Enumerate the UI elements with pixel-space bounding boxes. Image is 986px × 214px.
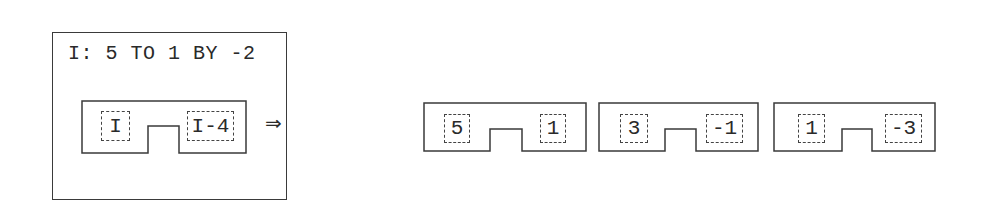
instance-2-right-slot: -1	[706, 114, 743, 143]
instance-1-left-slot: 5	[444, 114, 470, 143]
instance-3-right-slot: -3	[885, 114, 922, 143]
instance-shapes	[0, 0, 986, 214]
instance-2-left-slot: 3	[620, 114, 648, 143]
instance-1-right-slot: 1	[540, 114, 566, 143]
instance-3-left-slot: 1	[798, 114, 825, 143]
